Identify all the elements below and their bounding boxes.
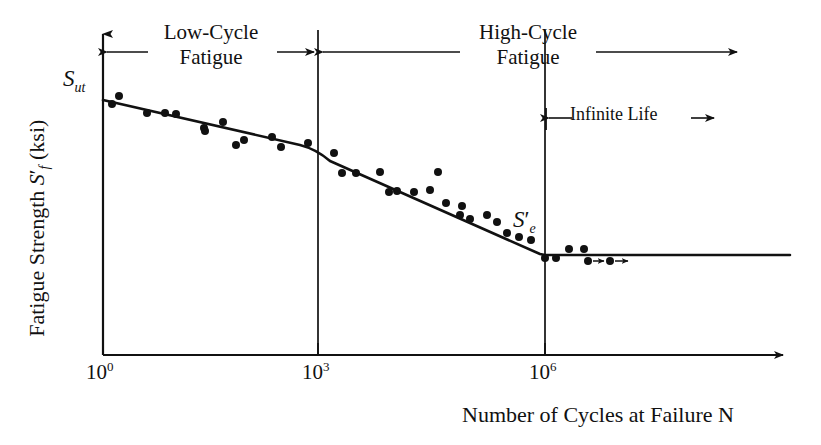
y-axis-title: Fatigue Strength S′f (ksi) (26, 103, 52, 353)
tick-2-base: 10 (529, 360, 550, 384)
data-point (352, 169, 360, 177)
data-point (541, 254, 549, 262)
data-point (219, 118, 227, 126)
data-point (426, 186, 434, 194)
data-point (580, 245, 588, 253)
data-point (456, 211, 464, 219)
tick-1-base: 10 (302, 360, 323, 384)
x-tick-label-1e3: 103 (302, 360, 330, 383)
data-point (466, 215, 474, 223)
data-point (376, 168, 384, 176)
data-point (434, 168, 442, 176)
se-symbol: S (513, 207, 525, 232)
data-point (268, 133, 276, 141)
axes (103, 34, 783, 355)
sut-marker-label: Sut (63, 67, 85, 95)
x-tick-label-1e6: 106 (529, 360, 557, 383)
data-point (483, 211, 491, 219)
high-cycle-line-2: Fatigue (462, 47, 594, 68)
sn-trend-line (103, 100, 790, 255)
data-point (493, 218, 501, 226)
region-label-infinite-life: Infinite Life (570, 105, 657, 123)
data-point (304, 139, 312, 147)
y-axis-prime: ′ (24, 169, 49, 174)
plot-canvas (0, 0, 821, 445)
data-point (115, 92, 123, 100)
data-point (143, 109, 151, 117)
x-axis-title: Number of Cycles at Failure N (462, 404, 734, 426)
low-cycle-line-2: Fatigue (151, 47, 271, 68)
data-point (584, 257, 592, 265)
sn-curve-path (103, 100, 790, 255)
data-point (240, 136, 248, 144)
data-point (503, 229, 511, 237)
data-point (172, 110, 180, 118)
tick-0-exponent: 0 (107, 359, 114, 374)
y-axis-units: (ksi) (24, 120, 49, 166)
data-point (606, 257, 614, 265)
tick-0-base: 10 (86, 360, 107, 384)
region-label-low-cycle: Low-Cycle Fatigue (151, 22, 271, 68)
low-cycle-line-1: Low-Cycle (164, 20, 258, 44)
sn-curve-figure: Low-Cycle Fatigue High-Cycle Fatigue Inf… (0, 0, 821, 445)
data-point (330, 149, 338, 157)
se-marker-label: S′e (513, 208, 536, 236)
tick-1-exponent: 3 (323, 359, 330, 374)
data-point (385, 188, 393, 196)
data-point (338, 169, 346, 177)
y-axis-title-text: Fatigue Strength (24, 185, 49, 337)
data-point (527, 236, 535, 244)
x-axis-ticks (103, 343, 545, 355)
data-point (410, 188, 418, 196)
data-point (108, 100, 116, 108)
data-point (552, 254, 560, 262)
y-axis-symbol-S: S (24, 174, 49, 185)
high-cycle-line-1: High-Cycle (479, 20, 577, 44)
x-tick-label-1e0: 100 (86, 360, 114, 383)
data-point (277, 143, 285, 151)
region-label-high-cycle: High-Cycle Fatigue (462, 22, 594, 68)
data-point (565, 245, 573, 253)
sut-symbol: S (63, 66, 75, 91)
se-subscript: e (530, 221, 536, 236)
data-point (458, 202, 466, 210)
y-axis-subscript-f: f (37, 165, 52, 169)
data-point (161, 109, 169, 117)
data-point (232, 141, 240, 149)
tick-2-exponent: 6 (550, 359, 557, 374)
data-point (201, 127, 209, 135)
data-point (442, 199, 450, 207)
data-point (393, 187, 401, 195)
sut-subscript: ut (75, 80, 86, 95)
